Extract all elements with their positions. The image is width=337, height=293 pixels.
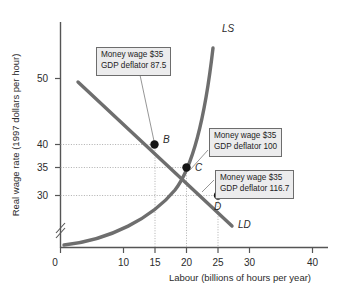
labour-supply-curve <box>64 48 213 245</box>
y-tick-label-50: 50 <box>37 73 49 84</box>
chart-figure: B C D LS LD 50 40 35 30 0 10 15 20 25 30… <box>0 0 337 293</box>
callout-c-line-2: GDP deflator 100 <box>214 142 277 153</box>
y-tick-label-40: 40 <box>37 139 49 150</box>
x-tick-label-10: 10 <box>118 257 130 268</box>
point-label-c: C <box>195 162 203 173</box>
callout-box-b: Money wage $35 GDP deflator 87.5 <box>96 47 171 76</box>
leader-line-d <box>202 180 214 192</box>
curve-label-ld: LD <box>238 219 251 230</box>
callout-c-line-1: Money wage $35 <box>214 131 277 142</box>
x-tick-label-25: 25 <box>212 257 224 268</box>
y-axis-title: Real wage rate (1997 dollars per hour) <box>10 54 21 217</box>
x-tick-label-30: 30 <box>244 257 256 268</box>
data-point-b <box>150 140 158 148</box>
curve-label-ls: LS <box>222 23 235 34</box>
x-tick-label-15: 15 <box>149 257 161 268</box>
x-tick-label-40: 40 <box>307 257 319 268</box>
callout-d-line-1: Money wage $35 <box>220 173 289 184</box>
chart-canvas: B C D LS LD 50 40 35 30 0 10 15 20 25 30… <box>0 0 337 293</box>
callout-box-c: Money wage $35 GDP deflator 100 <box>209 128 282 157</box>
leader-line-b <box>140 75 154 141</box>
callout-d-line-2: GDP deflator 116.7 <box>220 184 289 195</box>
callout-b-line-1: Money wage $35 <box>101 50 166 61</box>
x-tick-label-0: 0 <box>52 257 58 268</box>
point-label-d: D <box>214 201 221 212</box>
data-point-c <box>182 163 190 171</box>
point-label-b: B <box>163 134 170 145</box>
y-tick-label-30: 30 <box>37 190 49 201</box>
callout-box-d: Money wage $35 GDP deflator 116.7 <box>215 170 294 199</box>
callout-b-line-2: GDP deflator 87.5 <box>101 61 166 72</box>
y-tick-label-35: 35 <box>37 162 49 173</box>
x-tick-label-20: 20 <box>181 257 193 268</box>
x-axis-title: Labour (billions of hours per year) <box>169 272 311 283</box>
